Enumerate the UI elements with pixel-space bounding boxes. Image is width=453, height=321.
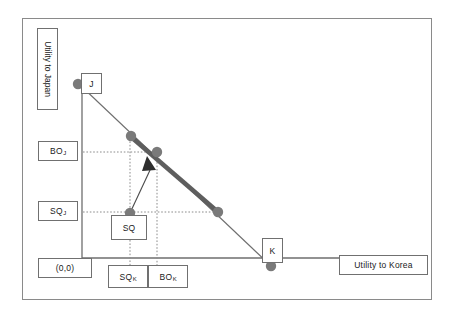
point-frontier-upper <box>126 131 136 141</box>
x-tick-bo-k-sub: K <box>173 276 177 282</box>
x-tick-bo-k-main: BO <box>160 272 173 282</box>
point-bo <box>152 147 162 157</box>
x-axis-title: Utility to Korea <box>339 255 428 275</box>
x-tick-label-sq-k: SQK <box>108 265 148 288</box>
point-label-k-text: K <box>270 246 276 256</box>
y-tick-sq-j-main: SQ <box>50 206 63 216</box>
x-tick-sq-k-sub: K <box>133 276 137 282</box>
y-tick-label-bo-j: BOJ <box>38 141 78 161</box>
origin-label-text: (0,0) <box>56 263 74 273</box>
improvement-arrow-shaft <box>130 168 151 213</box>
point-label-sq: SQ <box>111 215 147 240</box>
y-tick-sq-j-sub: J <box>63 210 66 216</box>
y-axis-title-text: Utility to Japan <box>43 41 53 97</box>
diagram-canvas: Utility to Japan Utility to Korea (0,0) … <box>0 0 453 321</box>
point-label-k: K <box>262 238 283 263</box>
y-axis-title: Utility to Japan <box>37 28 58 110</box>
point-label-j-text: J <box>89 79 93 89</box>
point-label-sq-text: SQ <box>123 223 136 233</box>
y-tick-bo-j-main: BO <box>50 146 63 156</box>
x-axis-title-text: Utility to Korea <box>354 260 412 270</box>
point-frontier-lower <box>213 207 223 217</box>
y-tick-bo-j-sub: J <box>63 150 66 156</box>
y-tick-label-sq-j: SQJ <box>38 201 78 221</box>
x-tick-label-bo-k: BOK <box>148 265 188 288</box>
bargaining-range-segment <box>130 136 218 212</box>
x-tick-sq-k-main: SQ <box>120 272 133 282</box>
point-label-j: J <box>81 73 102 94</box>
origin-label: (0,0) <box>38 258 92 278</box>
